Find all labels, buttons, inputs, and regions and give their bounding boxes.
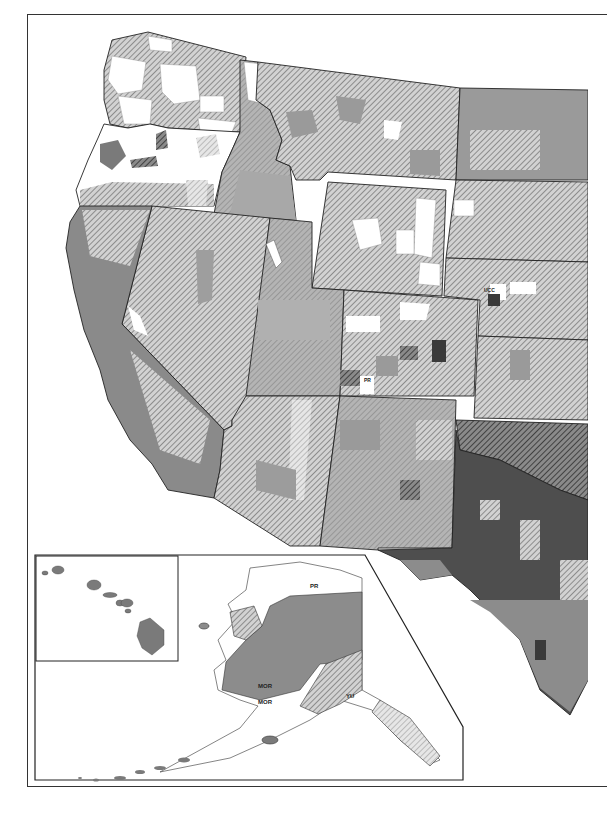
nd-hatch-fill bbox=[470, 130, 540, 170]
alaska-label-yu: YU bbox=[346, 693, 354, 699]
map-code-label-ucc: UCC bbox=[484, 287, 495, 293]
kansas-gray-fill bbox=[510, 350, 530, 380]
utah-lighter-fill bbox=[258, 300, 330, 340]
sd-white-counties bbox=[454, 200, 474, 216]
state-new-mexico bbox=[320, 396, 456, 550]
alaska-label-mor-2: MOR bbox=[258, 699, 273, 705]
nevada-gray-fill bbox=[196, 250, 214, 304]
state-kansas bbox=[474, 336, 588, 420]
map-code-label-pr: PR bbox=[364, 377, 371, 383]
inset-box: PR MOR MOR YU bbox=[35, 555, 463, 782]
alaska-label-pr: PR bbox=[310, 583, 319, 589]
state-south-dakota bbox=[446, 180, 588, 262]
idaho-gray-fill bbox=[230, 170, 296, 220]
kodiak-island bbox=[262, 736, 278, 744]
alaska-label-mor-1: MOR bbox=[258, 683, 273, 689]
st-lawrence-island bbox=[199, 623, 209, 629]
